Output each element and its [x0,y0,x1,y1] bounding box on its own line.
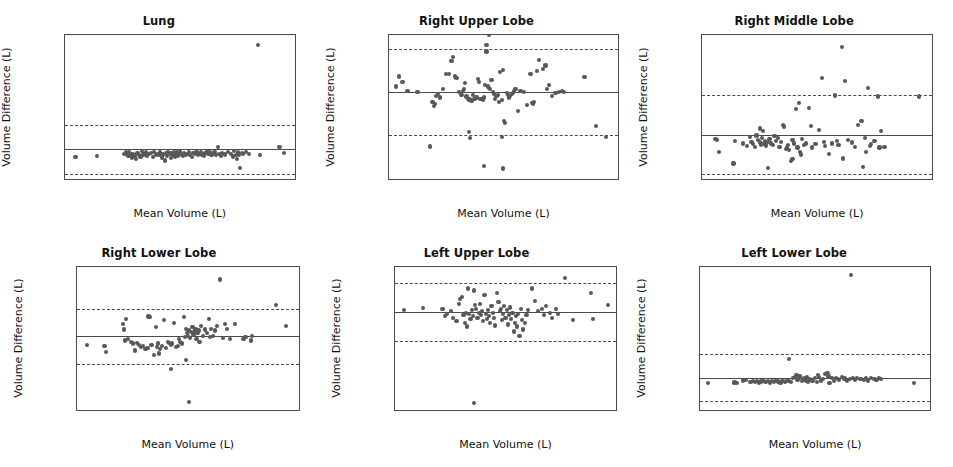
x-tick-label: 2.0 [604,179,620,180]
x-tick-mark [743,179,744,180]
data-point [184,358,188,362]
data-point [589,291,593,295]
y-tick-label: 0.00 [76,328,77,340]
data-point [218,277,222,281]
data-point [187,400,191,404]
data-point [397,74,401,78]
loa-lower-line [65,174,295,175]
data-point [512,329,516,333]
x-tick-mark [424,179,425,180]
data-point [124,317,128,321]
data-point [405,89,409,93]
x-tick-mark [216,179,217,180]
data-point [827,152,831,156]
data-point [766,166,770,170]
data-point [235,157,239,161]
panel-title: Right Middle Lobe [635,14,953,28]
loa-upper-line [389,49,619,50]
data-point [471,314,475,318]
x-tick-mark [711,179,712,180]
data-point [477,80,481,84]
mean-bias-line [395,312,617,313]
data-point [243,335,247,339]
loa-upper-line [395,283,617,284]
x-tick-mark [156,179,157,180]
data-point [843,79,847,83]
data-point [526,308,530,312]
data-point [833,93,837,97]
loa-lower-line [702,174,932,175]
data-point [789,380,793,384]
data-point [571,318,575,322]
data-point [496,93,500,97]
data-point [468,136,472,140]
data-point [582,75,586,79]
y-axis-label: Volume Difference (L) [637,34,650,180]
x-axis-label: Mean Volume (L) [394,438,618,451]
data-point [753,145,757,149]
data-point [591,317,595,321]
data-point [489,78,493,82]
y-axis-label: Volume Difference (L) [0,34,13,180]
y-axis-label: Volume Difference (L) [12,266,25,412]
data-point [247,152,251,156]
data-point [196,328,200,332]
x-tick-label: 8 [273,179,280,180]
data-point [782,124,786,128]
data-point [216,145,220,149]
data-point [482,293,486,297]
y-tick-label: −0.05 [394,314,395,326]
x-tick-label: 6 [213,179,220,180]
y-tick-label: 0.2 [64,115,65,127]
data-point [449,59,453,63]
y-axis-label: Volume Difference (L) [323,34,336,180]
data-point [859,119,863,123]
x-tick-mark [591,410,592,411]
x-tick-mark [791,410,792,411]
data-point [154,325,158,329]
loa-upper-line [702,95,932,96]
x-axis-label: Mean Volume (L) [388,207,620,220]
data-point [256,43,260,47]
data-point [841,156,845,160]
x-tick-mark [549,179,550,180]
data-point [491,311,495,315]
y-tick-label: 0.8 [699,278,700,290]
data-point [147,315,151,319]
y-tick-label: 0.0 [701,126,702,138]
y-tick-label: 0.1 [701,94,702,106]
data-point [912,381,916,385]
y-axis-label: Volume Difference (L) [329,266,342,412]
data-point [748,135,752,139]
x-axis-label: Mean Volume (L) [64,207,296,220]
data-point [771,143,775,147]
data-point [817,128,821,132]
data-point [238,166,242,170]
y-tick-label: 0.3 [701,34,702,43]
data-point [863,136,867,140]
data-point [542,313,546,317]
data-point [754,133,758,137]
plot-area: −0.10.00.10.20.30.20.30.40.50.60.70.8 [701,34,933,180]
x-tick-label: 0.5 [801,179,818,180]
data-point [879,377,883,381]
x-tick-mark [532,410,533,411]
x-tick-label: 0.8 [899,179,916,180]
data-point [454,76,458,80]
data-point [493,323,497,327]
data-point [459,93,463,97]
x-tick-mark [113,410,114,411]
data-point [489,304,493,308]
data-point [197,340,201,344]
data-point [488,321,492,325]
y-tick-label: 0.6 [64,68,65,80]
x-tick-label: 0.4 [768,179,785,180]
panel-title: Right Lower Lobe [0,246,318,260]
y-tick-label: −0.05 [76,350,77,362]
data-point [535,69,539,73]
x-tick-label: 2.0 [582,410,599,411]
data-point [223,322,227,326]
data-point [122,327,126,331]
data-point [221,336,225,340]
x-tick-label: 4 [152,179,159,180]
